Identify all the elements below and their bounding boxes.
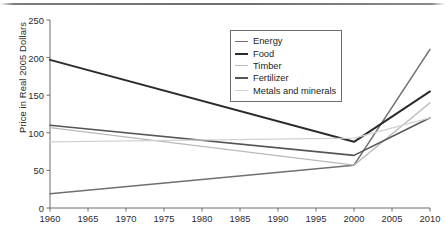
- x-tick-label-1980: 1980: [182, 213, 222, 224]
- legend-label-timber: Timber: [253, 61, 282, 71]
- chart-legend: Energy Food Timber Fertilizer Metals and…: [230, 30, 342, 102]
- x-tick-label-1985: 1985: [220, 213, 260, 224]
- x-tick-label-2005: 2005: [372, 213, 412, 224]
- legend-item-energy: Energy: [235, 35, 336, 47]
- legend-swatch-fertilizer: [235, 77, 248, 79]
- legend-item-metals-and-minerals: Metals and minerals: [235, 85, 336, 97]
- legend-item-timber: Timber: [235, 60, 336, 72]
- x-tick-label-1995: 1995: [296, 213, 336, 224]
- x-tick-label-1975: 1975: [144, 213, 184, 224]
- legend-label-fertilizer: Fertilizer: [253, 73, 289, 83]
- legend-label-food: Food: [253, 49, 274, 59]
- x-tick-label-2000: 2000: [334, 213, 374, 224]
- top-divider-rule: [0, 3, 445, 5]
- line-chart-figure: Price in Real 2005 Dollars 250 200 150 1…: [0, 10, 445, 236]
- legend-item-food: Food: [235, 47, 336, 59]
- legend-swatch-metals-and-minerals: [235, 90, 248, 91]
- plot-area: [0, 10, 445, 236]
- legend-swatch-food: [235, 53, 248, 55]
- legend-swatch-timber: [235, 65, 248, 66]
- x-tick-label-1990: 1990: [258, 213, 298, 224]
- x-tick-label-1960: 1960: [30, 213, 70, 224]
- x-tick-label-2010: 2010: [410, 213, 445, 224]
- legend-swatch-energy: [235, 41, 248, 42]
- legend-label-energy: Energy: [253, 36, 282, 46]
- x-tick-label-1970: 1970: [106, 213, 146, 224]
- x-tick-label-1965: 1965: [68, 213, 108, 224]
- legend-label-metals-and-minerals: Metals and minerals: [253, 86, 336, 96]
- legend-item-fertilizer: Fertilizer: [235, 72, 336, 84]
